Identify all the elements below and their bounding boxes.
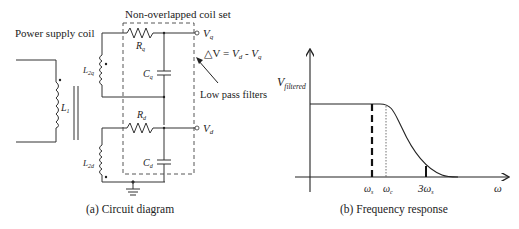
delta-v-equation: △V = Vd - Vq bbox=[204, 47, 262, 61]
low-pass-filters-label: Low pass filters bbox=[200, 89, 267, 100]
resistor-rq bbox=[127, 28, 196, 38]
coil-set-title: Non-overlapped coil set bbox=[125, 8, 231, 20]
label-vd: Vd bbox=[203, 122, 214, 136]
label-l2d: L2d bbox=[82, 158, 95, 169]
figure-canvas: Non-overlapped coil set Power supply coi… bbox=[0, 0, 519, 229]
filter-pointer-arrow bbox=[198, 60, 218, 83]
label-cq: Cq bbox=[143, 68, 153, 80]
l2q-coil bbox=[100, 33, 166, 97]
frequency-response-chart bbox=[295, 50, 508, 192]
tick-label-omega-s: ωs bbox=[364, 183, 374, 195]
power-supply-coil bbox=[16, 60, 78, 142]
label-l1: L1 bbox=[60, 102, 70, 114]
terminal-vq bbox=[195, 31, 199, 35]
coil-set-boundary bbox=[123, 23, 194, 174]
y-axis-label: Vfiltered bbox=[277, 75, 306, 91]
caption-circuit: (a) Circuit diagram bbox=[86, 203, 174, 216]
tick-label-3-omega-s: 3ωs bbox=[417, 182, 434, 195]
label-vq: Vq bbox=[203, 27, 214, 41]
label-l2q: L2q bbox=[82, 65, 94, 76]
polarity-dot-l1 bbox=[59, 79, 61, 81]
caption-frequency-response: (b) Frequency response bbox=[340, 203, 448, 216]
circuit-diagram bbox=[16, 23, 218, 195]
resistor-rd bbox=[127, 123, 196, 133]
x-axis-label: ω bbox=[494, 182, 502, 194]
polarity-dot-l2d bbox=[105, 176, 107, 178]
power-supply-label: Power supply coil bbox=[15, 27, 94, 39]
tick-label-omega-c: ωc bbox=[383, 183, 393, 195]
ground-icon bbox=[126, 181, 140, 195]
label-cd: Cd bbox=[143, 157, 154, 169]
terminal-vd bbox=[195, 126, 199, 130]
capacitor-cq bbox=[157, 33, 171, 125]
response-curve bbox=[310, 104, 458, 177]
polarity-dot-l2q bbox=[105, 63, 107, 65]
label-rq: Rq bbox=[135, 40, 145, 52]
label-rd: Rd bbox=[136, 109, 147, 121]
